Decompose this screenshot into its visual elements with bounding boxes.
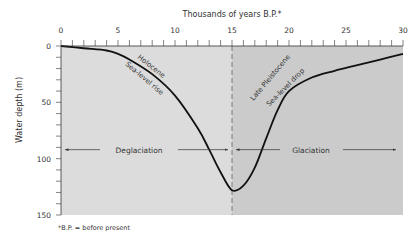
sea-level-chart: 051015202530050100150 DeglaciationGlacia… <box>0 0 415 241</box>
footnote: *B.P. = before present <box>58 224 130 232</box>
x-tick-label: 15 <box>227 26 237 35</box>
x-tick-label: 5 <box>116 26 121 35</box>
deglaciation-label: Deglaciation <box>116 146 163 155</box>
y-tick-label: 150 <box>37 211 52 220</box>
x-tick-label: 25 <box>341 26 351 35</box>
x-tick-label: 20 <box>284 26 294 35</box>
region-1 <box>232 46 403 215</box>
y-tick-label: 50 <box>41 98 51 107</box>
y-axis-label: Water depth (m) <box>15 77 24 143</box>
x-axis-label: Thousands of years B.P.* <box>182 10 282 19</box>
x-tick-label: 0 <box>59 26 64 35</box>
y-tick-label: 0 <box>46 42 51 51</box>
y-tick-label: 100 <box>37 155 52 164</box>
glaciation-label: Glaciation <box>292 146 330 155</box>
x-tick-label: 10 <box>170 26 180 35</box>
region-0 <box>61 46 232 215</box>
x-tick-label: 30 <box>398 26 408 35</box>
